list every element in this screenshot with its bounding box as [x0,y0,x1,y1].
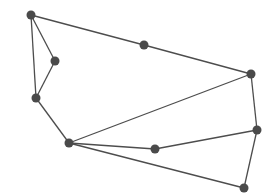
graph-diagram [0,0,264,194]
node-H [151,145,160,154]
edge-G-I [244,130,257,188]
node-G [253,126,262,135]
edge-H-G [155,130,257,149]
node-B [51,57,60,66]
node-F [247,70,256,79]
edge-A-B [31,15,55,61]
node-A [27,11,36,20]
node-layer [27,11,262,193]
edge-C-E [36,98,69,143]
edge-E-F [69,74,251,143]
edge-A-C [31,15,36,98]
edge-F-G [251,74,257,130]
node-I [240,184,249,193]
edge-D-F [144,45,251,74]
edge-A-D [31,15,144,45]
edge-B-C [36,61,55,98]
node-C [32,94,41,103]
node-D [140,41,149,50]
node-E [65,139,74,148]
